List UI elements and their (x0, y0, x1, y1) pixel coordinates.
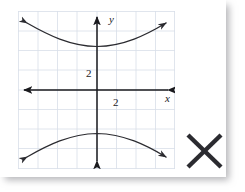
y-axis-tick-label: 2 (86, 68, 92, 79)
worksheet-page: 2 2 y x (0, 0, 226, 177)
x-axis-tick-label: 2 (113, 97, 119, 108)
hyperbola-graph: 2 2 y x (18, 11, 175, 169)
x-axis-name-label: x (165, 93, 170, 104)
axes-and-curves (18, 11, 175, 169)
incorrect-x-mark (183, 129, 227, 173)
screenshot-root: 2 2 y x (0, 0, 245, 192)
y-axis-name-label: y (109, 14, 114, 25)
